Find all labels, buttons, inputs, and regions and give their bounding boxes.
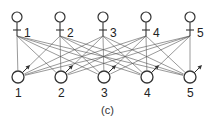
bottom-node-label-1: 1 <box>15 87 22 99</box>
top-node-5 <box>185 12 195 22</box>
connection-line <box>110 36 190 74</box>
bottom-node-label-3: 3 <box>101 87 108 99</box>
connection-line <box>24 36 103 74</box>
connection-line <box>17 36 18 70</box>
top-node-label-5: 5 <box>197 27 204 39</box>
top-node-label-2: 2 <box>67 27 74 39</box>
bottom-node-label-4: 4 <box>144 87 151 99</box>
top-node-4 <box>141 12 151 22</box>
figure-caption: (c) <box>0 104 215 116</box>
top-node-1 <box>12 12 22 22</box>
connection-line <box>146 36 147 70</box>
connection-line <box>67 36 146 74</box>
top-node-label-1: 1 <box>24 27 31 39</box>
top-node-label-3: 3 <box>110 27 117 39</box>
top-node-2 <box>55 12 65 22</box>
top-node-3 <box>98 12 108 22</box>
connection-line <box>60 36 61 70</box>
connection-line <box>17 36 98 74</box>
top-node-label-4: 4 <box>153 27 160 39</box>
connection-line <box>103 36 104 70</box>
bottom-node-label-5: 5 <box>187 87 194 99</box>
bottom-node-label-2: 2 <box>58 87 65 99</box>
